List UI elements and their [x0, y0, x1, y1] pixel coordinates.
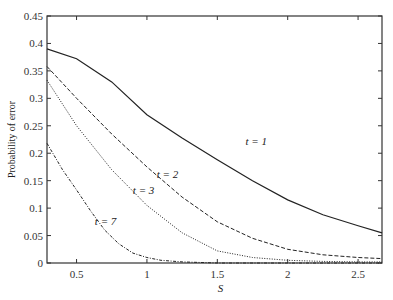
- y-tick-label: 0.05: [24, 230, 44, 242]
- chart: 0.511.522.500.050.10.150.20.250.30.350.4…: [0, 0, 393, 300]
- y-tick-label: 0.25: [24, 120, 44, 132]
- series-label: t = 3: [133, 184, 155, 196]
- series-line-t3: [47, 80, 382, 262]
- x-tick-label: 0.5: [70, 268, 84, 280]
- y-tick-label: 0.2: [29, 147, 43, 159]
- series-label: t = 1: [245, 135, 266, 147]
- y-tick-label: 0.3: [29, 92, 43, 104]
- y-axis-label: Probability of error: [6, 100, 17, 178]
- y-tick-label: 0: [38, 257, 44, 269]
- y-tick-label: 0.1: [29, 202, 43, 214]
- series-label: t = 2: [157, 168, 179, 180]
- series-label: t = 7: [95, 215, 117, 227]
- y-tick-label: 0.4: [29, 37, 43, 49]
- x-tick-label: 2.5: [351, 268, 365, 280]
- x-axis-label: S: [218, 282, 224, 294]
- y-tick-label: 0.15: [24, 175, 44, 187]
- series-line-t2: [47, 67, 382, 259]
- x-tick-label: 2: [285, 268, 291, 280]
- series-line-t1: [47, 49, 382, 233]
- x-tick-label: 1.5: [210, 268, 224, 280]
- x-tick-label: 1: [144, 268, 150, 280]
- y-tick-label: 0.45: [24, 10, 44, 22]
- y-tick-label: 0.35: [24, 65, 44, 77]
- series-line-t7: [47, 143, 382, 263]
